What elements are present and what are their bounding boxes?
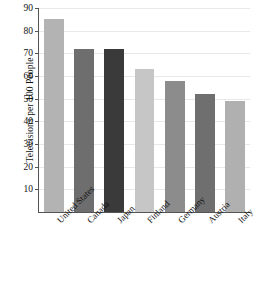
y-tick-mark — [35, 121, 39, 122]
y-tick-mark — [35, 189, 39, 190]
y-tick-mark — [35, 99, 39, 100]
y-tick-mark — [35, 8, 39, 9]
plot-area: 102030405060708090 United StatesCanadaJa… — [39, 8, 250, 212]
source-caption — [2, 279, 266, 286]
bar — [225, 101, 245, 212]
y-tick-mark — [35, 31, 39, 32]
y-tick-label: 20 — [24, 162, 34, 172]
bar — [135, 69, 155, 212]
gridline — [39, 53, 250, 54]
y-tick-label: 60 — [24, 71, 34, 81]
y-axis-line — [38, 8, 39, 213]
y-tick-label: 10 — [24, 184, 34, 194]
y-axis-title: Televisions per 100 People — [25, 10, 35, 210]
y-tick-label: 80 — [24, 26, 34, 36]
y-tick-mark — [35, 76, 39, 77]
y-tick-mark — [35, 167, 39, 168]
gridline — [39, 31, 250, 32]
y-tick-label: 70 — [24, 48, 34, 58]
gridline — [39, 8, 250, 9]
bar — [104, 49, 124, 212]
bar — [165, 81, 185, 212]
y-tick-label: 30 — [24, 139, 34, 149]
y-tick-mark — [35, 53, 39, 54]
y-tick-label: 40 — [24, 116, 34, 126]
y-tick-label: 90 — [24, 3, 34, 13]
y-tick-label: 50 — [24, 94, 34, 104]
bar — [44, 19, 64, 212]
bar-chart-figure: Televisions per 100 People 1020304050607… — [0, 0, 268, 286]
y-tick-mark — [35, 144, 39, 145]
